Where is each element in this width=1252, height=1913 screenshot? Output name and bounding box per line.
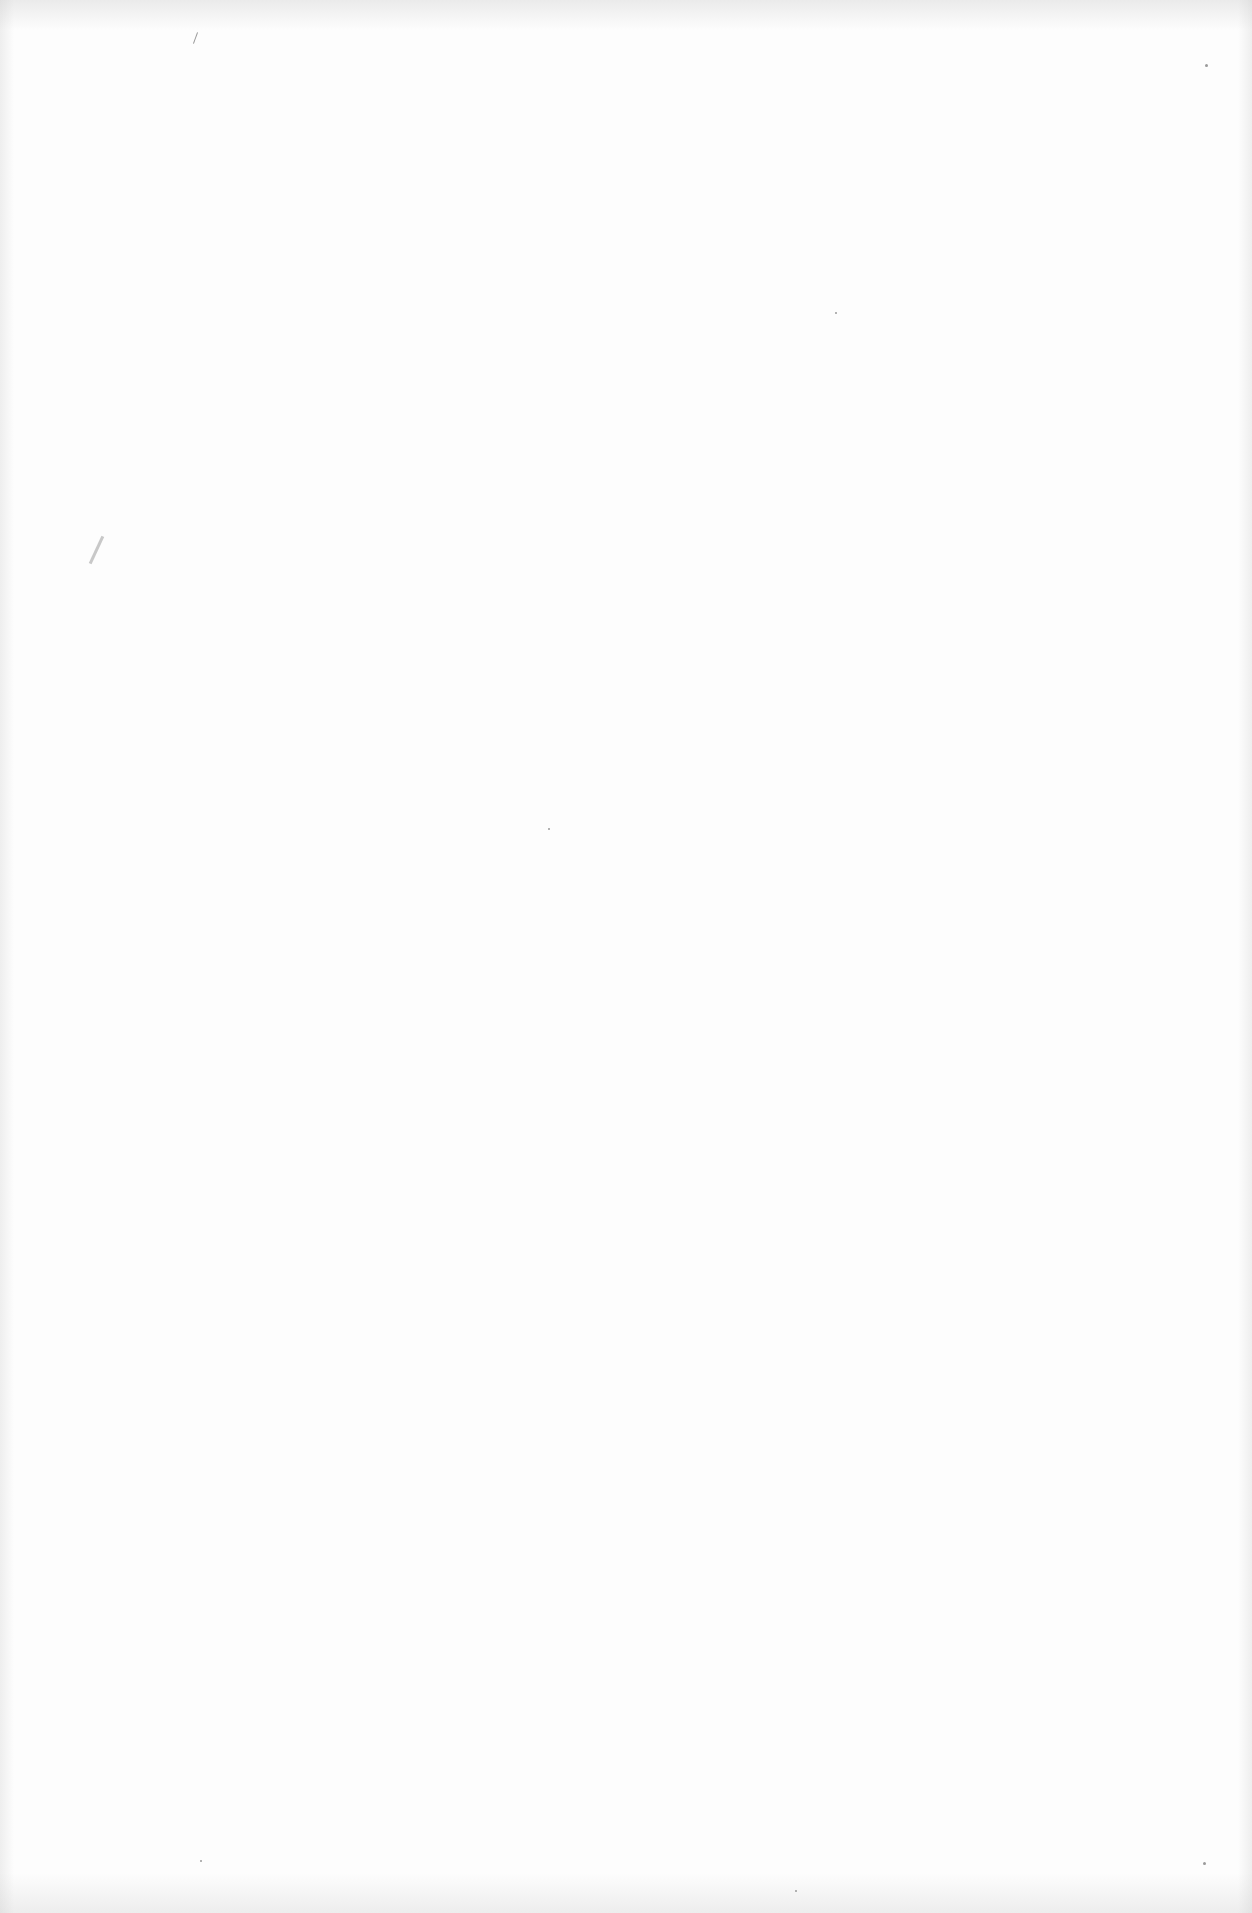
speck [200,1860,202,1862]
blank-page [0,0,1252,1913]
speck [795,1890,797,1892]
speck [548,828,550,830]
speck [835,312,837,314]
smudge-mark [89,536,104,564]
scan-mark [193,32,198,44]
speck [1203,1862,1206,1865]
speck [1205,64,1208,67]
